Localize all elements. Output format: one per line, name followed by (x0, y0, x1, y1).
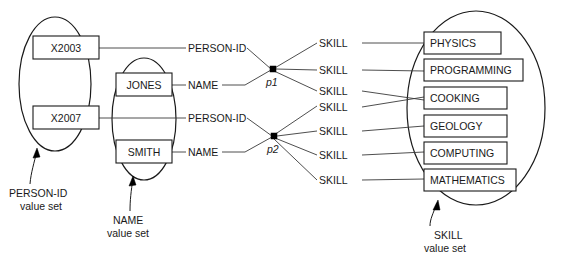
value-box-x2003-label: X2003 (51, 42, 82, 54)
edge-label-skill-1: SKILL (319, 37, 348, 49)
edge-label-name-2: NAME (188, 146, 218, 158)
value-box-smith-label: SMITH (128, 146, 161, 158)
skill-value-set-caption-line1: SKILL (434, 229, 463, 241)
edge-personid-label-to-p1 (247, 48, 271, 69)
entity-node-p1-dot (270, 66, 276, 72)
value-box-cooking-label: COOKING (430, 92, 480, 104)
entity-node-p2-dot (271, 133, 277, 139)
entity-node-p2-label: p2 (266, 143, 279, 155)
edge-label-skill-4: SKILL (319, 101, 348, 113)
edge-label-skill-3: SKILL (319, 85, 348, 97)
name-value-set-caption-line2: value set (107, 227, 149, 239)
value-box-computing-label: COMPUTING (430, 147, 494, 159)
skill-caption-arrowhead (433, 200, 440, 210)
edge-skill2-to-programming (362, 70, 424, 71)
edge-skill5-to-geology (362, 126, 424, 131)
edge-p2-to-skill-4 (274, 106, 317, 135)
person-id-value-set-caption-line1: PERSON-ID (9, 187, 68, 199)
skill-value-set-caption-line2: value set (424, 242, 466, 254)
edge-p1-to-skill-2 (276, 69, 317, 70)
entity-node-p1-label: p1 (265, 76, 278, 88)
value-box-mathematics-label: MATHEMATICS (430, 174, 505, 186)
edge-p2-to-skill-5 (277, 131, 317, 136)
diagram-svg: X2003 X2007 JONES SMITH PHYSICS PROGRAMM… (0, 0, 561, 258)
edge-p1-to-skill-1 (273, 43, 317, 69)
edge-p1-to-skill-3 (274, 71, 317, 91)
edge-skill7-to-mathematics (362, 179, 424, 180)
edge-skill4-to-cooking (362, 97, 424, 107)
edge-label-skill-2: SKILL (319, 64, 348, 76)
edge-label-person-id-2: PERSON-ID (188, 112, 247, 124)
person-id-caption-arrowhead (33, 148, 40, 158)
value-box-geology-label: GEOLOGY (430, 120, 483, 132)
edge-label-skill-7: SKILL (319, 174, 348, 186)
value-box-physics-label: PHYSICS (430, 37, 476, 49)
edge-label-person-id-1: PERSON-ID (188, 42, 247, 54)
edge-personid-label-to-p2 (247, 118, 272, 136)
name-value-set-caption-line1: NAME (113, 214, 143, 226)
person-id-value-set-caption-line2: value set (20, 200, 62, 212)
value-box-x2007-label: X2007 (51, 112, 82, 124)
value-box-jones-label: JONES (126, 79, 161, 91)
edge-p2-to-skill-7 (274, 139, 317, 180)
edge-label-skill-6: SKILL (319, 149, 348, 161)
diagram-canvas: X2003 X2007 JONES SMITH PHYSICS PROGRAMM… (0, 0, 561, 258)
value-box-programming-label: PROGRAMMING (430, 64, 512, 76)
edge-label-name-1: NAME (188, 79, 218, 91)
edge-label-skill-5: SKILL (319, 125, 348, 137)
